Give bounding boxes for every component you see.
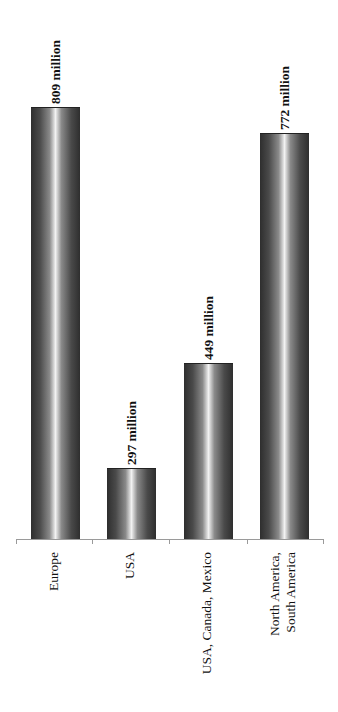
x-axis-tick (247, 539, 248, 544)
value-label-usa: 297 million (124, 265, 140, 465)
category-label-usa-canada-mexico: USA, Canada, Mexico (199, 552, 215, 712)
bar-chart: 809 million 297 million 449 million 772 … (0, 0, 338, 712)
category-label-europe: Europe (46, 552, 62, 712)
value-label-usa-canada-mexico: 449 million (201, 160, 217, 360)
x-axis-tick (92, 539, 93, 544)
x-axis-tick (16, 539, 17, 544)
category-label-usa: USA (122, 552, 138, 712)
bar-usa (107, 468, 156, 539)
x-axis-line (16, 539, 324, 540)
value-label-europe: 809 million (48, 0, 64, 104)
bar-europe (31, 107, 80, 539)
category-label-north-south-america: North America, South America (267, 552, 299, 712)
bar-usa-canada-mexico (184, 363, 233, 539)
x-axis-tick (169, 539, 170, 544)
bar-north-south-america (260, 133, 309, 539)
x-axis-tick (323, 539, 324, 544)
value-label-north-south-america: 772 million (277, 0, 293, 130)
